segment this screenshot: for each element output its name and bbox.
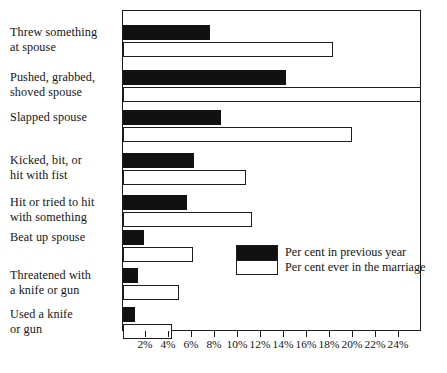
category-label-line: with something bbox=[10, 210, 122, 225]
bar-previous-year bbox=[123, 70, 286, 85]
x-axis-tick-labels: 2%4%6%8%10%12%14%16%18%20%22%24% bbox=[0, 338, 447, 358]
horizontal-bar-chart: Threw somethingat spousePushed, grabbed,… bbox=[0, 0, 447, 373]
bar-ever-in-marriage bbox=[123, 170, 246, 185]
category-label-line: hit with fist bbox=[10, 168, 122, 183]
category-label: Pushed, grabbed,shoved spouse bbox=[10, 70, 122, 99]
x-axis-tick bbox=[191, 331, 192, 337]
chart-legend: Per cent in previous year Per cent ever … bbox=[236, 245, 425, 275]
x-axis-tick bbox=[214, 331, 215, 337]
legend-label-group: Per cent in previous year Per cent ever … bbox=[285, 245, 425, 274]
legend-swatch-previous-year bbox=[237, 246, 277, 260]
bar-previous-year bbox=[123, 25, 210, 40]
x-axis-tick-label: 4% bbox=[160, 338, 175, 351]
bar-previous-year bbox=[123, 110, 221, 125]
legend-label-previous-year: Per cent in previous year bbox=[285, 245, 425, 260]
category-label-line: a knife or gun bbox=[10, 283, 122, 298]
x-axis-tick bbox=[352, 331, 353, 337]
x-axis-tick-label: 2% bbox=[137, 338, 152, 351]
x-axis-tick-label: 6% bbox=[183, 338, 198, 351]
bar-previous-year bbox=[123, 268, 138, 283]
x-axis-tick bbox=[283, 331, 284, 337]
x-axis-tick bbox=[329, 331, 330, 337]
bar-ever-in-marriage bbox=[123, 42, 333, 57]
category-label-line: Hit or tried to hit bbox=[10, 195, 122, 210]
bar-previous-year bbox=[123, 230, 144, 245]
bar-previous-year bbox=[123, 153, 194, 168]
category-label-line: shoved spouse bbox=[10, 85, 122, 100]
x-axis-tick bbox=[237, 331, 238, 337]
x-axis-tick-label: 16% bbox=[296, 338, 317, 351]
x-axis-tick bbox=[398, 331, 399, 337]
x-axis-tick-label: 18% bbox=[319, 338, 340, 351]
x-axis-tick-label: 20% bbox=[342, 338, 363, 351]
category-label-line: or gun bbox=[10, 322, 122, 337]
category-label-line: Pushed, grabbed, bbox=[10, 70, 122, 85]
x-axis-tick-label: 12% bbox=[250, 338, 271, 351]
category-label: Hit or tried to hitwith something bbox=[10, 195, 122, 224]
category-label-line: Threw something bbox=[10, 25, 122, 40]
plot-area bbox=[122, 10, 421, 331]
x-axis-tick-label: 14% bbox=[273, 338, 294, 351]
bar-ever-in-marriage bbox=[123, 212, 252, 227]
category-label-line: Used a knife bbox=[10, 307, 122, 322]
bar-ever-in-marriage bbox=[123, 247, 193, 262]
x-axis-tick-label: 8% bbox=[206, 338, 221, 351]
legend-swatch-ever-in-marriage bbox=[237, 260, 277, 274]
category-label: Kicked, bit, orhit with fist bbox=[10, 153, 122, 182]
bar-ever-in-marriage bbox=[123, 127, 352, 142]
category-label-line: Threatened with bbox=[10, 268, 122, 283]
category-label: Threw somethingat spouse bbox=[10, 25, 122, 54]
x-axis-tick bbox=[145, 331, 146, 337]
legend-label-ever-in-marriage: Per cent ever in the marriage bbox=[285, 260, 425, 275]
category-label: Slapped spouse bbox=[10, 110, 122, 125]
bar-previous-year bbox=[123, 195, 187, 210]
category-label-line: Beat up spouse bbox=[10, 230, 122, 245]
legend-swatch-group bbox=[236, 245, 278, 275]
category-label: Used a knifeor gun bbox=[10, 307, 122, 336]
category-label: Beat up spouse bbox=[10, 230, 122, 245]
x-axis-tick-label: 22% bbox=[365, 338, 386, 351]
x-axis-tick-label: 24% bbox=[388, 338, 409, 351]
x-axis-tick bbox=[168, 331, 169, 337]
bars-container bbox=[123, 11, 420, 330]
x-axis-tick bbox=[260, 331, 261, 337]
category-label-line: Kicked, bit, or bbox=[10, 153, 122, 168]
category-label: Threatened witha knife or gun bbox=[10, 268, 122, 297]
bar-ever-in-marriage bbox=[123, 285, 179, 300]
category-label-line: Slapped spouse bbox=[10, 110, 122, 125]
category-label-column: Threw somethingat spousePushed, grabbed,… bbox=[0, 0, 118, 331]
x-axis-tick bbox=[375, 331, 376, 337]
bar-ever-in-marriage bbox=[123, 87, 421, 102]
category-label-line: at spouse bbox=[10, 40, 122, 55]
x-axis-tick-label: 10% bbox=[227, 338, 248, 351]
bar-previous-year bbox=[123, 307, 135, 322]
x-axis-tick bbox=[306, 331, 307, 337]
